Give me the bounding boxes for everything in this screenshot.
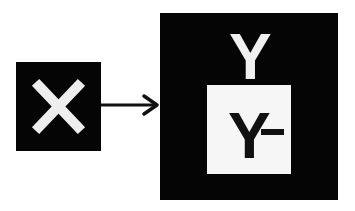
target-box: Y Y xyxy=(160,13,338,200)
inner-label: Y xyxy=(228,104,271,168)
target-label: Y xyxy=(229,25,272,89)
minus-mark xyxy=(261,129,284,135)
inner-box: Y xyxy=(207,85,291,174)
